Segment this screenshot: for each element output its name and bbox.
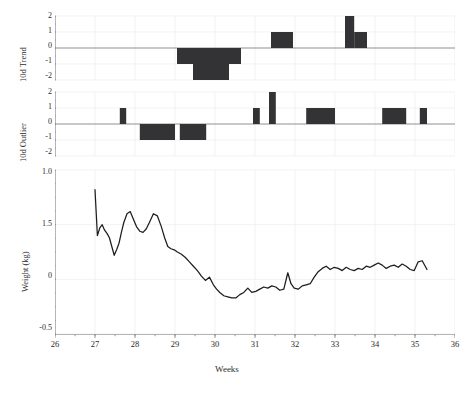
trend-ytick: -2 — [31, 72, 52, 80]
weight-xtick-label: 26 — [43, 340, 67, 349]
outlier-ytick: 0 — [34, 118, 52, 126]
trend-plot-area — [55, 10, 455, 86]
bar — [271, 32, 293, 48]
outlier-ytick: -1 — [31, 133, 52, 141]
panel-weight: Weight (kg) 1.0 1.5 0 -0.5 2627282930313… — [0, 162, 454, 394]
bar — [269, 92, 276, 124]
weight-xtick-label: 36 — [443, 340, 464, 349]
weight-xtick-label: 27 — [83, 340, 107, 349]
outlier-ytick: 1 — [34, 103, 52, 111]
bar — [140, 124, 175, 140]
bar — [177, 48, 193, 64]
weight-xtick-label: 34 — [363, 340, 387, 349]
trend-ytick: 0 — [34, 42, 52, 50]
bar — [180, 124, 206, 140]
weight-xtick-label: 35 — [403, 340, 427, 349]
bar — [120, 108, 126, 124]
panel-10d-trend: 10d Trend 2 1 0 -1 -2 — [0, 6, 454, 86]
weight-xtick-label: 33 — [323, 340, 347, 349]
panel-10d-outlier: 10d Outlier 2 1 0 -1 -2 — [0, 84, 454, 158]
weight-xtick-label: 30 — [203, 340, 227, 349]
bar — [193, 48, 229, 80]
weight-xaxis-ticks: 2627282930313233343536 — [0, 162, 454, 394]
bar — [345, 16, 354, 48]
bar — [253, 108, 260, 124]
bar — [229, 48, 241, 64]
trend-ytick: 2 — [34, 12, 52, 20]
bar — [420, 108, 427, 124]
weight-xtick-label: 31 — [243, 340, 267, 349]
outlier-plot-area — [55, 86, 455, 162]
trend-axis-label: 10d Trend — [18, 47, 28, 82]
weight-xtick-label: 29 — [163, 340, 187, 349]
trend-ytick: -1 — [31, 57, 52, 65]
bar — [382, 108, 406, 124]
trend-ytick: 1 — [34, 27, 52, 35]
outlier-axis-label: 10d Outlier — [18, 123, 28, 162]
bar — [354, 32, 367, 48]
outlier-ytick: -2 — [31, 148, 52, 156]
bar — [306, 108, 335, 124]
weight-xaxis-label: Weeks — [0, 364, 454, 374]
outlier-ytick: 2 — [34, 88, 52, 96]
weight-xtick-label: 28 — [123, 340, 147, 349]
weight-xtick-label: 32 — [283, 340, 307, 349]
